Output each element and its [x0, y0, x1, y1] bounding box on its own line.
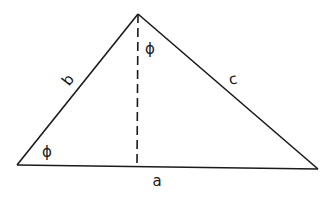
- altitude-dashed-line: [137, 14, 138, 166]
- side-a-label: a: [152, 172, 161, 190]
- side-a-line: [17, 165, 318, 169]
- side-c-line: [138, 14, 318, 169]
- side-b-label: b: [58, 71, 78, 90]
- side-c-label: c: [227, 69, 238, 88]
- angle-apex-label: ϕ: [145, 40, 155, 58]
- triangle-diagram: ϕ ϕ b c a: [0, 0, 335, 197]
- side-b-line: [17, 14, 138, 165]
- diagram-svg: ϕ ϕ b c a: [0, 0, 335, 197]
- angle-left-label: ϕ: [42, 143, 52, 161]
